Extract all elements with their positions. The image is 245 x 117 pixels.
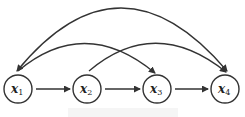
node-x1: x1 (4, 75, 32, 103)
caption-cutoff (68, 108, 178, 117)
causal-graph: x1 x2 x3 x4 (0, 0, 245, 117)
edge-x1-x4 (17, 8, 227, 71)
node-x4: x4 (211, 75, 239, 103)
node-x3: x3 (143, 75, 171, 103)
node-x2: x2 (73, 75, 101, 103)
